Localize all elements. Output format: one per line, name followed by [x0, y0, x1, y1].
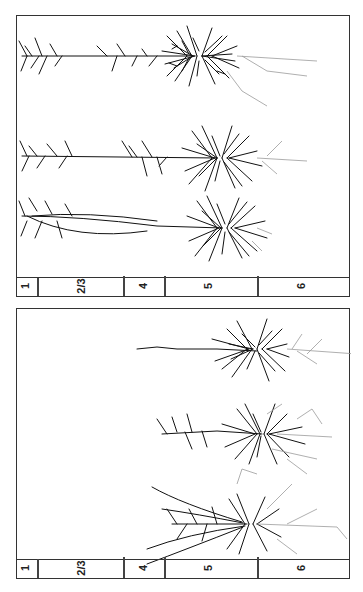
layer-divider [164, 557, 166, 578]
neuron-reconstructions-bottom [17, 309, 351, 580]
layer-divider [123, 276, 125, 296]
layer-label-1: 1 [19, 565, 31, 571]
layer-label-2-3: 2/3 [75, 560, 87, 575]
figure-panel-bottom [16, 308, 350, 579]
layer-label-5: 5 [202, 565, 214, 571]
neuron-reconstructions-top [17, 16, 351, 298]
layer-label-4: 4 [137, 283, 149, 289]
layer-label-6: 6 [295, 565, 307, 571]
figure-panel-top [16, 15, 350, 297]
layer-axis-line [17, 559, 349, 561]
layer-axis-line [17, 277, 349, 279]
layer-divider [257, 557, 259, 578]
layer-divider [123, 557, 125, 578]
layer-label-5: 5 [202, 283, 214, 289]
layer-divider [164, 276, 166, 296]
layer-divider [37, 278, 39, 296]
layer-divider [257, 276, 259, 296]
layer-label-4: 4 [137, 565, 149, 571]
layer-label-2-3: 2/3 [75, 278, 87, 293]
layer-label-1: 1 [19, 283, 31, 289]
layer-divider [37, 559, 39, 578]
layer-label-6: 6 [295, 283, 307, 289]
